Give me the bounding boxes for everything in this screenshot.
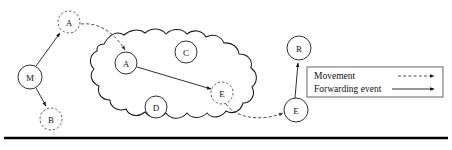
node-label: A [123,59,130,69]
node-label: M [26,73,34,83]
node-label: A [66,18,73,28]
node-label: B [48,115,54,125]
edge-e-outside-to-r [295,63,298,98]
node-b[interactable]: B [40,108,62,130]
node-label: E [293,106,299,116]
legend-label-forwarding-event: Forwarding event [314,84,382,94]
node-a-inside[interactable]: A [115,52,137,74]
legend-label-movement: Movement [314,71,356,81]
node-d[interactable]: D [145,96,167,118]
node-e-inside[interactable]: E [211,82,233,104]
node-label: C [183,48,189,58]
figure-canvas: A M B A C D E E [0,0,452,150]
node-c[interactable]: C [175,41,197,63]
node-e-outside[interactable]: E [284,98,308,122]
node-a-outside[interactable]: A [58,11,80,33]
node-r[interactable]: R [287,36,311,60]
node-label: E [219,89,225,99]
legend: Movement Forwarding event [307,67,443,97]
node-m[interactable]: M [18,65,42,89]
edge-m-to-a-outside [36,33,60,66]
cloud-region [90,29,256,118]
node-label: D [153,103,160,113]
node-label: R [296,44,302,54]
edge-m-to-b [36,88,46,106]
